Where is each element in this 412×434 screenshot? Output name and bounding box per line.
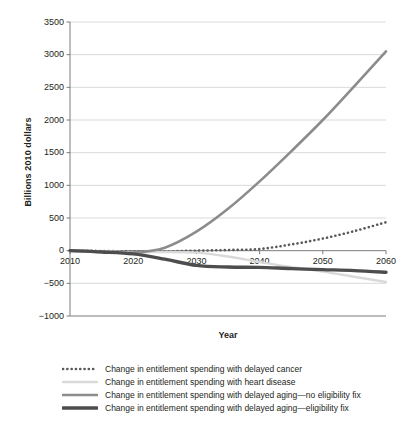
legend-swatch-icon (62, 376, 98, 388)
legend-label: Change in entitlement spending with dela… (105, 402, 349, 414)
legend-swatch-icon (62, 402, 98, 414)
legend-item[interactable]: Change in entitlement spending with hear… (62, 375, 402, 388)
plot-svg (70, 22, 386, 316)
chart-legend: Change in entitlement spending with dela… (62, 362, 402, 414)
legend-label: Change in entitlement spending with hear… (105, 376, 295, 388)
y-tick-label: 1500 (20, 148, 64, 157)
y-tick-label: 3500 (20, 18, 64, 27)
y-tick-label: −1000 (20, 312, 64, 321)
legend-item[interactable]: Change in entitlement spending with dela… (62, 401, 402, 414)
y-tick-label: 0 (20, 246, 64, 255)
legend-swatch-icon (62, 363, 98, 375)
y-tick-label: −500 (20, 279, 64, 288)
y-tick-label: 2000 (20, 116, 64, 125)
x-axis-title: Year (70, 330, 386, 340)
legend-item[interactable]: Change in entitlement spending with dela… (62, 388, 402, 401)
y-tick-label: 2500 (20, 83, 64, 92)
legend-label: Change in entitlement spending with dela… (105, 363, 302, 375)
y-tick-label: 3000 (20, 50, 64, 59)
legend-swatch-icon (62, 389, 98, 401)
series-lines (70, 51, 386, 282)
chart-figure: Billions 2010 dollars 350030002500200015… (0, 0, 412, 434)
axis-ticks (67, 22, 387, 316)
series-line-3 (70, 251, 386, 273)
legend-label: Change in entitlement spending with dela… (105, 389, 361, 401)
legend-item[interactable]: Change in entitlement spending with dela… (62, 362, 402, 375)
series-line-0 (70, 222, 386, 251)
series-line-2 (70, 51, 386, 252)
plot-area (70, 22, 386, 316)
y-tick-label: 500 (20, 214, 64, 223)
gridlines (70, 22, 386, 316)
y-tick-label: 1000 (20, 181, 64, 190)
